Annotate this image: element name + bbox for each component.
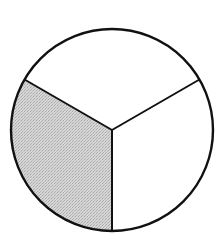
- divider-line: [112, 80, 199, 131]
- fraction-circle-diagram: [0, 0, 224, 251]
- shaded-sector: [11, 80, 112, 232]
